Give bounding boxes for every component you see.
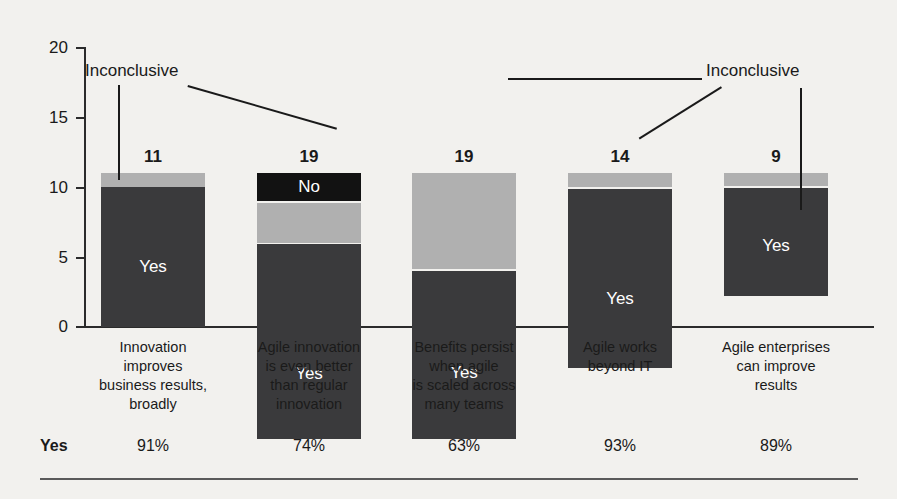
category-label-3-line-3: is scaled across xyxy=(399,376,529,395)
bottom-divider-rule xyxy=(40,478,858,480)
yes-percent-1: 91% xyxy=(101,437,205,455)
bar-segment-yes-label-1: Yes xyxy=(101,257,205,277)
category-label-3: Benefits persist when agile is scaled ac… xyxy=(399,338,529,414)
bar-segment-inconclusive-1[interactable] xyxy=(101,173,205,187)
bar-segment-yes-label-4: Yes xyxy=(568,289,672,309)
bar-total-3: 19 xyxy=(412,147,516,167)
bar-segment-yes-label-5: Yes xyxy=(724,236,828,256)
category-label-3-line-1: Benefits persist xyxy=(399,338,529,357)
annotation-inconclusive-right: Inconclusive xyxy=(706,61,800,81)
category-label-3-line-4: many teams xyxy=(399,395,529,414)
leader-line-right-horizontal xyxy=(508,78,702,80)
y-tick-mark-20 xyxy=(76,47,85,49)
category-label-1-line-2: improves xyxy=(88,357,218,376)
category-label-4-line-2: beyond IT xyxy=(555,357,685,376)
category-label-3-line-2: when agile xyxy=(399,357,529,376)
bar-segment-inconclusive-2[interactable] xyxy=(257,203,361,243)
leader-line-left-diagonal xyxy=(187,85,337,130)
category-label-2: Agile innovation is even better than reg… xyxy=(244,338,374,414)
bar-total-4: 14 xyxy=(568,147,672,167)
bar-segment-no-label-2: No xyxy=(257,177,361,197)
category-label-2-line-2: is even better xyxy=(244,357,374,376)
category-label-1-line-4: broadly xyxy=(88,395,218,414)
bar-segment-yes-1[interactable]: Yes xyxy=(101,187,205,327)
bar-total-2: 19 xyxy=(257,147,361,167)
category-label-5-line-1: Agile enterprises xyxy=(711,338,841,357)
yes-percent-4: 93% xyxy=(568,437,672,455)
y-tick-label-15: 15 xyxy=(30,109,68,126)
category-label-5-line-2: can improve xyxy=(711,357,841,376)
y-tick-label-0: 0 xyxy=(30,318,68,335)
annotation-inconclusive-left: Inconclusive xyxy=(85,61,179,81)
bar-total-5: 9 xyxy=(724,147,828,167)
bar-segment-inconclusive-4[interactable] xyxy=(568,173,672,187)
category-label-2-line-1: Agile innovation xyxy=(244,338,374,357)
yes-row-label: Yes xyxy=(40,437,68,455)
bar-segment-inconclusive-5[interactable] xyxy=(724,173,828,186)
category-label-5: Agile enterprises can improve results xyxy=(711,338,841,395)
yes-percent-5: 89% xyxy=(724,437,828,455)
y-tick-label-5: 5 xyxy=(30,249,68,266)
y-tick-mark-10 xyxy=(76,187,85,189)
category-label-2-line-3: than regular xyxy=(244,376,374,395)
yes-percent-3: 63% xyxy=(412,437,516,455)
leader-line-right-diagonal xyxy=(639,86,722,139)
y-tick-mark-5 xyxy=(76,257,85,259)
yes-percent-2: 74% xyxy=(257,437,361,455)
leader-line-left-vertical xyxy=(118,85,120,180)
category-label-1-line-1: Innovation xyxy=(88,338,218,357)
category-label-4: Agile works beyond IT xyxy=(555,338,685,376)
category-label-1: Innovation improves business results, br… xyxy=(88,338,218,414)
y-tick-label-10: 10 xyxy=(30,179,68,196)
chart-canvas: 20 15 10 5 0 11 Yes 19 No Yes 19 Yes xyxy=(0,0,897,499)
y-tick-mark-15 xyxy=(76,117,85,119)
y-tick-label-20: 20 xyxy=(30,39,68,56)
category-label-1-line-3: business results, xyxy=(88,376,218,395)
bar-segment-no-2[interactable]: No xyxy=(257,173,361,201)
category-label-2-line-4: innovation xyxy=(244,395,374,414)
bar-segment-inconclusive-3[interactable] xyxy=(412,173,516,269)
y-tick-mark-0 xyxy=(76,326,85,328)
category-label-5-line-3: results xyxy=(711,376,841,395)
bar-segment-yes-5[interactable]: Yes xyxy=(724,188,828,296)
leader-line-right-vertical xyxy=(800,88,802,210)
category-label-4-line-1: Agile works xyxy=(555,338,685,357)
bar-total-1: 11 xyxy=(101,147,205,167)
